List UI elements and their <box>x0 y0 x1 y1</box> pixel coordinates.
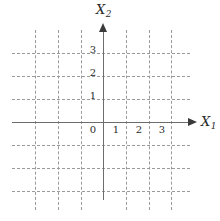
x-tick-label-2: 2 <box>134 124 144 135</box>
gridline-horizontal <box>12 168 190 169</box>
gridline-horizontal <box>12 145 190 146</box>
x-tick-label-1: 1 <box>111 124 121 135</box>
gridline-horizontal <box>12 99 190 100</box>
y-axis-label-subscript: 2 <box>106 9 112 19</box>
y-axis-label: X2 <box>96 2 112 19</box>
x-tick-label-0: 0 <box>88 124 98 135</box>
gridline-vertical <box>35 30 36 210</box>
x-axis-line <box>12 122 190 123</box>
y-axis-arrow-icon <box>99 23 107 32</box>
x-axis-label-subscript: 1 <box>211 121 217 131</box>
gridline-vertical <box>126 30 127 210</box>
gridline-vertical <box>149 30 150 210</box>
y-axis-label-name: X <box>96 2 105 17</box>
x-tick-label-3: 3 <box>157 124 167 135</box>
y-tick-label-3: 3 <box>88 44 98 55</box>
gridline-horizontal <box>12 76 190 77</box>
x-axis-label: X1 <box>201 114 217 131</box>
y-tick-label-2: 2 <box>88 67 98 78</box>
gridline-vertical <box>171 30 172 210</box>
x-axis-arrow-icon <box>188 118 197 126</box>
y-axis-line <box>103 30 104 200</box>
gridline-horizontal <box>12 53 190 54</box>
x-axis-label-name: X <box>201 114 210 129</box>
gridline-vertical <box>58 30 59 210</box>
y-tick-label-1: 1 <box>88 90 98 101</box>
gridline-vertical <box>81 30 82 210</box>
coordinate-plane-figure: X1 X2 0 1 2 3 1 2 3 <box>0 0 220 221</box>
gridline-horizontal <box>12 191 190 192</box>
